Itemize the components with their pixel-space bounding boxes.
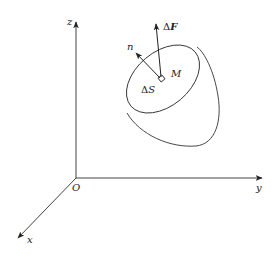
force-symbol: F	[169, 21, 178, 32]
surface-force-diagram: z y x O ΔF n M ΔS	[0, 0, 278, 257]
z-axis-label: z	[66, 16, 73, 27]
point-label: M	[170, 68, 182, 79]
x-axis-label: x	[27, 234, 33, 245]
area-delta: Δ	[141, 84, 148, 95]
normal-label: n	[127, 41, 133, 52]
surface-bowl-outline	[127, 47, 219, 146]
force-label: ΔF	[163, 21, 178, 32]
force-delta: Δ	[163, 21, 170, 32]
x-axis	[18, 178, 76, 238]
area-element	[158, 75, 165, 82]
y-axis-label: y	[255, 182, 262, 193]
origin-label: O	[72, 182, 80, 193]
area-element-label: ΔS	[141, 84, 155, 95]
area-symbol: S	[148, 84, 155, 95]
coordinate-axes	[18, 22, 262, 238]
